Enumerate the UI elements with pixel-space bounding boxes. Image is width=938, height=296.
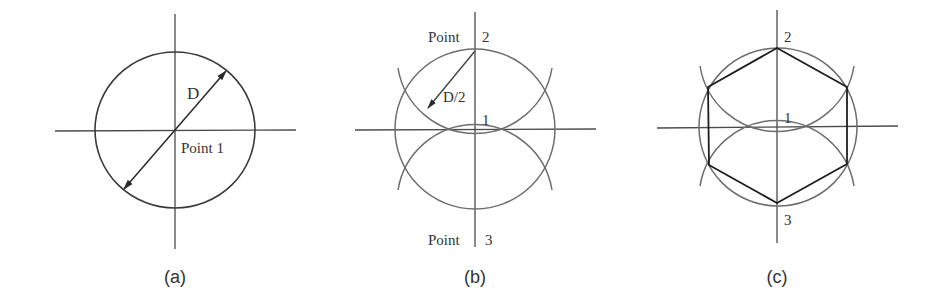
caption-c: (c)	[767, 267, 788, 287]
point-1-label: 1	[482, 112, 490, 128]
point-1-label: 1	[784, 110, 792, 126]
panel-c: 2 1 3 (c)	[657, 10, 898, 287]
diameter-arrow-upper	[175, 71, 226, 130]
point-3-prefix: Point	[428, 232, 461, 248]
diameter-label: D	[187, 84, 199, 103]
point-3-label: 3	[784, 212, 792, 228]
diameter-arrow-lower	[124, 130, 175, 189]
radius-label: D/2	[443, 89, 466, 105]
caption-b: (b)	[464, 267, 486, 287]
caption-a: (a)	[164, 267, 186, 287]
panel-a: D Point 1 (a)	[55, 14, 296, 287]
point-1-label: Point 1	[181, 140, 224, 156]
diagram-canvas: D Point 1 (a) Point 2 D/2 1 Point 3 (b)	[0, 0, 938, 296]
hexagon-construction-figure: D Point 1 (a) Point 2 D/2 1 Point 3 (b)	[0, 0, 938, 296]
point-2-number: 2	[482, 29, 490, 45]
point-3-number: 3	[485, 232, 493, 248]
panel-b: Point 2 D/2 1 Point 3 (b)	[355, 12, 596, 287]
point-2-prefix: Point	[428, 29, 461, 45]
point-2-label: 2	[784, 29, 792, 45]
